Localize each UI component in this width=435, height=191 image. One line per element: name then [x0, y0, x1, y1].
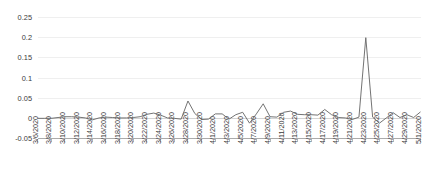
- x-tick-label: 4/23/2020: [359, 112, 368, 144]
- y-tick-label: -0.05: [15, 134, 32, 143]
- y-tick-label: 0.05: [18, 94, 32, 103]
- x-tick-label: 3/22/2020: [140, 112, 149, 144]
- y-tick-label: 0.1: [22, 74, 32, 83]
- y-tick-label: 0.2: [22, 33, 32, 42]
- y-axis-tick-labels: -0.0500.050.10.150.20.25: [15, 13, 32, 143]
- x-tick-label: 4/5/2020: [236, 116, 245, 144]
- x-tick-label: 3/26/2020: [167, 112, 176, 144]
- x-tick-label: 4/11/2020: [277, 113, 286, 144]
- x-tick-label: 3/20/2020: [126, 112, 135, 144]
- x-tick-label: 4/15/2020: [304, 112, 313, 144]
- x-tick-label: 4/7/2020: [249, 116, 258, 144]
- x-tick-label: 4/17/2020: [318, 112, 327, 144]
- x-tick-label: 4/21/2020: [345, 112, 354, 144]
- x-tick-label: 3/8/2020: [44, 116, 53, 144]
- y-tick-label: 0.25: [18, 13, 32, 22]
- x-tick-label: 3/24/2020: [154, 112, 163, 144]
- chart-plot-area: -0.0500.050.10.150.20.25 3/6/20203/8/202…: [0, 0, 435, 191]
- x-tick-label: 3/14/2020: [85, 112, 94, 144]
- x-tick-label: 3/18/2020: [113, 112, 122, 144]
- x-tick-label: 4/1/2020: [208, 116, 217, 144]
- x-tick-label: 3/6/2020: [31, 116, 40, 144]
- x-tick-label: 4/25/2020: [372, 112, 381, 144]
- x-tick-label: 5/1/2020: [414, 116, 423, 144]
- line-chart: -0.0500.050.10.150.20.25 3/6/20203/8/202…: [0, 0, 435, 191]
- x-tick-label: 4/13/2020: [290, 112, 299, 144]
- data-series-line: [38, 38, 421, 124]
- y-tick-label: 0.15: [18, 53, 32, 62]
- x-tick-label: 4/9/2020: [263, 116, 272, 144]
- x-tick-label: 4/3/2020: [222, 116, 231, 144]
